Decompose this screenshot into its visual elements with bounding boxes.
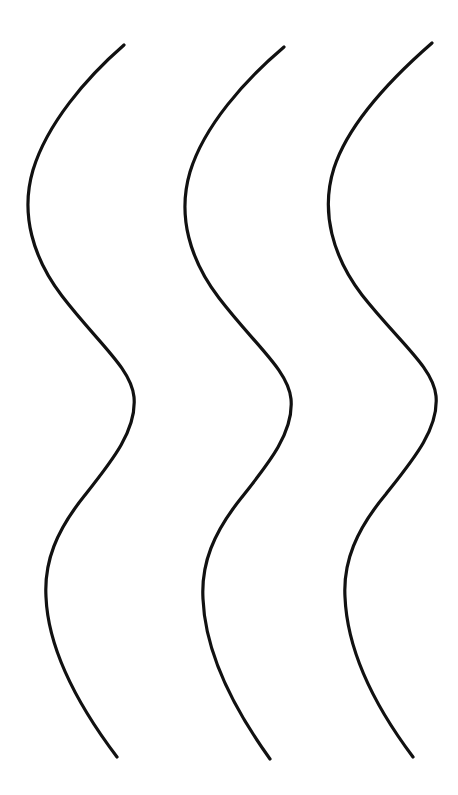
drawing-canvas [0, 0, 458, 795]
curves-svg [0, 0, 458, 795]
